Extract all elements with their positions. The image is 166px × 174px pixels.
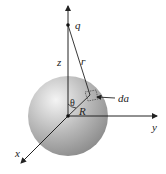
sphere-diagram: q z ᴦ θ R da y x: [0, 0, 166, 174]
angle-label: θ: [70, 97, 75, 108]
radius-label: R: [78, 105, 86, 117]
y-axis-label: y: [151, 121, 157, 133]
charge-label: q: [75, 19, 81, 31]
separation-label: ᴦ: [81, 55, 86, 67]
area-element-label: da: [118, 92, 130, 104]
z-axis-label: z: [56, 56, 62, 68]
origin-point: [66, 114, 70, 118]
x-axis-label: x: [14, 147, 20, 159]
charge-point: [66, 23, 70, 27]
